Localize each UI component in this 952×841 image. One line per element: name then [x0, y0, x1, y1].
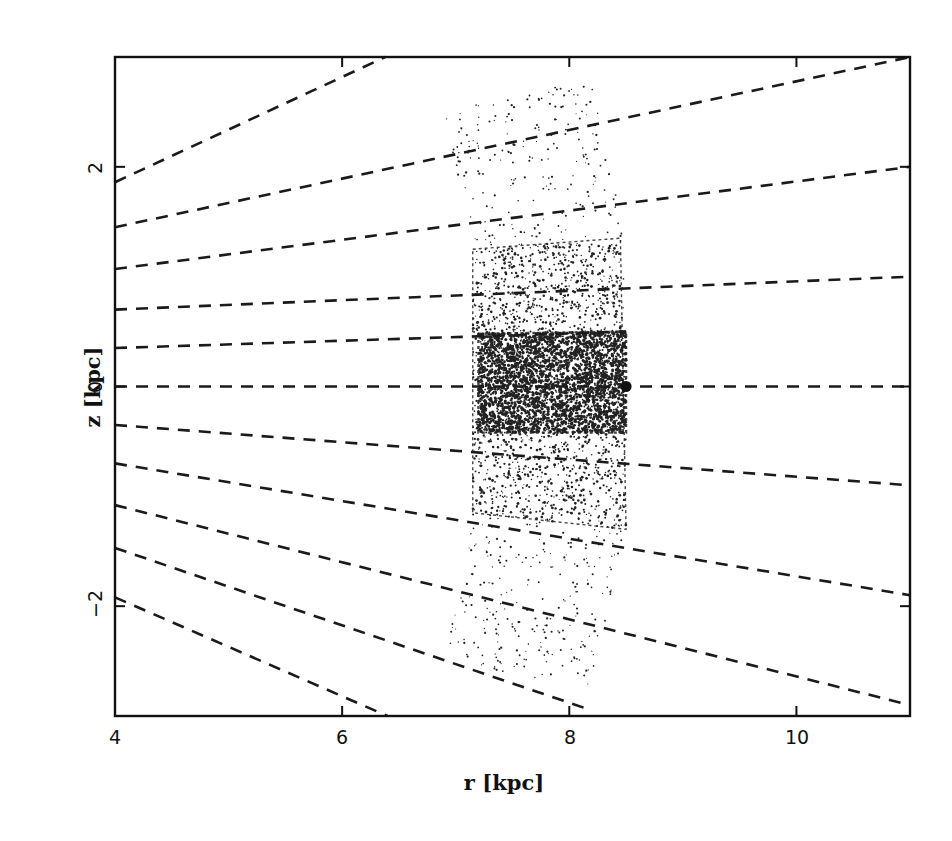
chart-canvas: [0, 0, 952, 841]
sun-marker: [621, 381, 632, 392]
sightline-2: [115, 167, 910, 269]
x-tick-label-8: 8: [564, 728, 576, 747]
x-tick-label-6: 6: [336, 728, 348, 747]
x-tick-label-4: 4: [109, 728, 121, 747]
sightline-9: [115, 548, 592, 711]
y-axis-title: z [kpc]: [80, 346, 105, 427]
dashed-sightlines: [115, 57, 910, 716]
sample-point-regions: [446, 86, 628, 685]
region-inner-dense: [477, 331, 628, 435]
sightline-8: [115, 505, 910, 705]
sightline-10: [115, 597, 388, 716]
sun-marker-dot: [621, 381, 632, 392]
sightline-7: [115, 463, 910, 595]
sightline-1: [115, 57, 910, 227]
y-tick-label-2: 2: [86, 162, 105, 174]
sightline-0: [115, 57, 385, 182]
y-tick-label-neg2: −2: [86, 590, 105, 618]
x-tick-label-10: 10: [785, 728, 809, 747]
x-axis-title: r [kpc]: [464, 770, 544, 795]
